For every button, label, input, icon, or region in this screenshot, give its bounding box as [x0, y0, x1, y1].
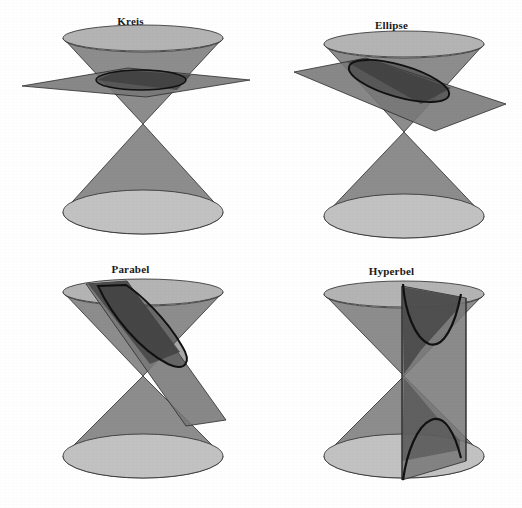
panel-ellipse: Ellipse — [261, 0, 522, 254]
lower-cone-base-disk — [324, 194, 484, 238]
upper-cone-top-disk — [63, 25, 223, 51]
lower-cone-base-disk — [63, 434, 223, 478]
upper-cone-top-disk — [324, 31, 484, 57]
panel-kreis: Kreis — [0, 0, 261, 254]
panel-parabel: Parabel — [0, 254, 261, 508]
parabel-diagram — [0, 254, 261, 508]
panel-hyperbel: Hyperbel — [261, 254, 522, 508]
ellipse-diagram — [261, 0, 522, 254]
kreis-diagram — [0, 0, 261, 254]
lower-cone-base-disk — [63, 190, 223, 234]
conic-curve-circle — [96, 70, 186, 90]
conic-sections-figure: Kreis Ellipse — [0, 0, 522, 508]
hyperbel-diagram — [261, 254, 522, 508]
